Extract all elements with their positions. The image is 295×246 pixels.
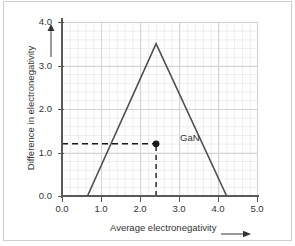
y-axis-title-text: Difference in electronegativity bbox=[25, 46, 36, 170]
x-tick-3 bbox=[179, 197, 180, 202]
y-tick-label-1: 1.0 bbox=[39, 147, 52, 158]
y-axis-line bbox=[61, 18, 63, 198]
x-tick-2 bbox=[140, 197, 141, 202]
boundary-triangle-line bbox=[87, 44, 226, 196]
x-tick-1 bbox=[101, 197, 102, 202]
y-tick-label-3: 3.0 bbox=[39, 60, 52, 71]
y-axis-title: Difference in electronegativity bbox=[22, 16, 38, 200]
y-tick-label-2: 2.0 bbox=[39, 103, 52, 114]
x-tick-label-3: 3.0 bbox=[172, 203, 185, 214]
x-tick-0 bbox=[62, 197, 63, 202]
y-tick-4 bbox=[58, 22, 64, 23]
x-tick-5 bbox=[257, 197, 258, 202]
y-tick-label-4: 4.0 bbox=[39, 16, 52, 27]
x-tick-label-0: 0.0 bbox=[55, 203, 68, 214]
x-axis-title-text: Average electronegativity bbox=[110, 222, 217, 233]
y-tick-0 bbox=[58, 196, 64, 197]
plot-area bbox=[62, 22, 258, 196]
x-axis-title: Average electronegativity bbox=[110, 222, 251, 233]
gan-data-point bbox=[153, 140, 160, 147]
x-tick-label-4: 4.0 bbox=[211, 203, 224, 214]
x-tick-label-5: 5.0 bbox=[250, 203, 263, 214]
y-tick-2 bbox=[58, 109, 64, 110]
y-axis-arrow-icon bbox=[46, 24, 56, 58]
x-tick-label-1: 1.0 bbox=[94, 203, 107, 214]
chart-data-layer bbox=[62, 22, 258, 196]
y-tick-3 bbox=[58, 66, 64, 67]
x-tick-4 bbox=[218, 197, 219, 202]
x-tick-label-2: 2.0 bbox=[133, 203, 146, 214]
y-tick-1 bbox=[58, 153, 64, 154]
y-tick-label-0: 0.0 bbox=[39, 190, 52, 201]
x-axis-line bbox=[62, 195, 259, 197]
gan-point-label: GaN bbox=[180, 132, 200, 143]
x-axis-arrow-icon bbox=[221, 224, 251, 232]
chart-figure: Difference in electronegativity GaN bbox=[0, 0, 295, 246]
